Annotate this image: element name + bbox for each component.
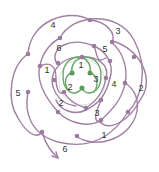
region-label: 6 (62, 144, 67, 154)
region-label: 3 (94, 108, 99, 118)
inner-region-label: 2 (67, 82, 72, 92)
region-label: 5 (15, 88, 20, 98)
region-label: 4 (50, 20, 55, 30)
inner-region-label: 1 (78, 60, 83, 70)
inner-nodes (70, 71, 93, 91)
region-label: 5 (102, 44, 107, 54)
inner-region-label: 3 (93, 74, 98, 84)
region-label: 6 (56, 43, 61, 53)
region-label: 2 (58, 98, 63, 108)
knot-diagram: 4 3 6 5 1 4 2 5 2 3 1 6 1 3 2 (0, 0, 159, 172)
region-label: 4 (111, 79, 116, 89)
region-label: 2 (138, 83, 143, 93)
region-label: 1 (44, 65, 49, 75)
region-label: 1 (101, 130, 106, 140)
region-label: 3 (115, 26, 120, 36)
